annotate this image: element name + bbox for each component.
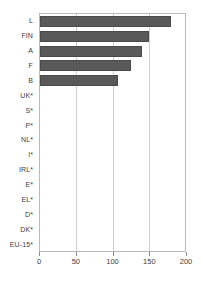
- bar-row: [40, 221, 185, 236]
- x-axis-tick-label: 50: [72, 257, 80, 266]
- x-axis-tick: [76, 252, 77, 256]
- bar-chart: L FIN A F B UK* S* P* NL* I* IRL* E* EL*…: [0, 0, 201, 294]
- x-axis-tick-label: 150: [143, 257, 156, 266]
- bar-row: [40, 162, 185, 177]
- bar-row: [40, 147, 185, 162]
- bar-L: [40, 16, 171, 27]
- bar-row: [40, 14, 185, 29]
- x-axis-tick: [186, 252, 187, 256]
- y-axis-tick-label: F: [0, 58, 36, 73]
- y-axis-tick-label: D*: [0, 207, 36, 222]
- y-axis-tick-label: FIN: [0, 28, 36, 43]
- y-axis-tick-label: DK*: [0, 222, 36, 237]
- y-axis-tick-label: EU-15*: [0, 237, 36, 252]
- y-axis-tick-label: NL*: [0, 133, 36, 148]
- bar-row: [40, 88, 185, 103]
- bar-row: [40, 58, 185, 73]
- bar-row: [40, 192, 185, 207]
- y-axis-tick-label: B: [0, 73, 36, 88]
- bar-rows: [40, 14, 185, 251]
- y-axis-tick-label: E*: [0, 177, 36, 192]
- x-axis-tick-label: 200: [180, 257, 193, 266]
- bar-row: [40, 207, 185, 222]
- y-axis-tick-label: S*: [0, 103, 36, 118]
- y-axis-tick-label: IRL*: [0, 162, 36, 177]
- bar-A: [40, 46, 142, 57]
- bar-row: [40, 29, 185, 44]
- y-axis-tick-label: A: [0, 43, 36, 58]
- bar-F: [40, 60, 131, 71]
- bar-row: [40, 177, 185, 192]
- x-axis-tick-label: 100: [106, 257, 119, 266]
- x-axis-ticks: [39, 252, 186, 256]
- x-axis-tick: [39, 252, 40, 256]
- y-axis-tick-label: UK*: [0, 88, 36, 103]
- bar-B: [40, 75, 118, 86]
- x-axis-tick: [149, 252, 150, 256]
- bar-row: [40, 133, 185, 148]
- y-axis-tick-label: L: [0, 13, 36, 28]
- y-axis-labels: L FIN A F B UK* S* P* NL* I* IRL* E* EL*…: [0, 13, 36, 252]
- bar-row: [40, 103, 185, 118]
- bar-row: [40, 73, 185, 88]
- y-axis-tick-label: I*: [0, 147, 36, 162]
- plot-area: [39, 13, 186, 252]
- x-axis-labels: 0 50 100 150 200: [0, 257, 201, 271]
- x-axis-tick: [113, 252, 114, 256]
- bar-row: [40, 44, 185, 59]
- x-axis-tick-label: 0: [37, 257, 41, 266]
- bar-row: [40, 236, 185, 251]
- y-axis-tick-label: EL*: [0, 192, 36, 207]
- bar-row: [40, 118, 185, 133]
- y-axis-tick-label: P*: [0, 118, 36, 133]
- bar-FIN: [40, 31, 149, 42]
